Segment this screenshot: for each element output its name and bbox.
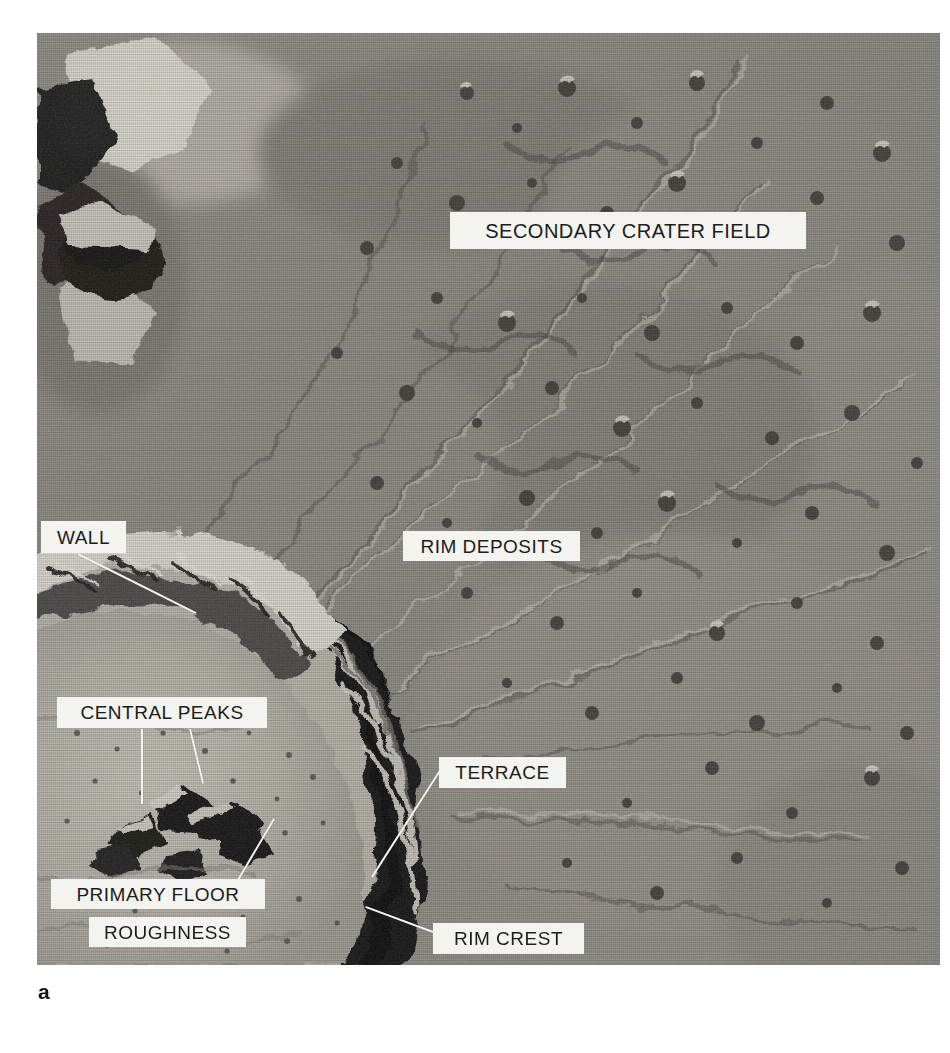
annotation-label-secondary-crater-field: SECONDARY CRATER FIELD — [450, 212, 806, 249]
figure-caption: a — [38, 981, 50, 1002]
figure-container: SECONDARY CRATER FIELD RIM DEPOSITS WALL… — [0, 0, 950, 1053]
annotation-label-rim-deposits: RIM DEPOSITS — [403, 531, 580, 561]
annotation-label-rim-crest: RIM CREST — [433, 923, 584, 954]
annotation-label-terrace: TERRACE — [439, 757, 566, 788]
annotation-label-wall: WALL — [41, 521, 126, 553]
annotation-label-central-peaks: CENTRAL PEAKS — [57, 697, 267, 728]
terrain-image — [37, 33, 940, 965]
annotation-label-primary-floor: PRIMARY FLOOR — [51, 879, 265, 909]
lunar-photograph — [37, 33, 940, 965]
annotation-label-roughness: ROUGHNESS — [89, 917, 246, 947]
leader-line-central-peaks-1 — [141, 729, 143, 804]
